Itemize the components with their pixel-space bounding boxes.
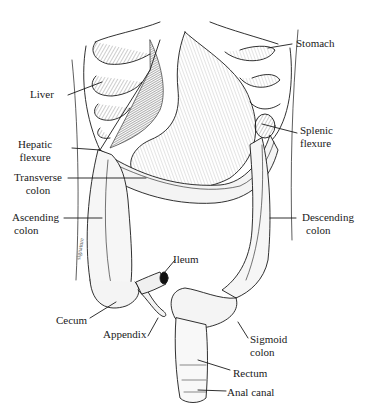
label-text: colon [250, 346, 287, 359]
cecum-shape [90, 280, 139, 308]
label-text: Cecum [56, 314, 87, 327]
label-text: colon [12, 224, 59, 237]
label-hepatic-flexure: Hepatic flexure [18, 138, 52, 164]
label-text: Anal canal [227, 386, 274, 399]
label-text: colon [302, 224, 354, 237]
colon-anatomy-illustration: signature [0, 0, 367, 410]
label-text: flexure [18, 151, 52, 164]
label-rectum: Rectum [233, 367, 267, 380]
label-text: Appendix [103, 328, 146, 341]
artist-signature: signature [75, 237, 85, 260]
label-text: Sigmoid [250, 333, 287, 346]
label-descending-colon: Descending colon [302, 211, 354, 237]
label-text: Hepatic [18, 138, 52, 151]
label-text: Descending [302, 211, 354, 224]
label-ileum: Ileum [173, 253, 199, 266]
label-transverse-colon: Transverse colon [14, 171, 62, 197]
label-text: Stomach [296, 37, 335, 50]
label-splenic-flexure: Splenic flexure [300, 124, 333, 150]
label-cecum: Cecum [56, 314, 87, 327]
label-text: Splenic [300, 124, 333, 137]
label-text: Transverse [14, 171, 62, 184]
label-text: Ileum [173, 253, 199, 266]
label-text: flexure [300, 137, 333, 150]
label-liver: Liver [30, 88, 54, 101]
splenic-flexure-shape [255, 114, 275, 138]
label-text: colon [14, 184, 62, 197]
label-sigmoid-colon: Sigmoid colon [250, 333, 287, 359]
label-stomach: Stomach [296, 37, 335, 50]
label-ascending-colon: Ascending colon [12, 211, 59, 237]
label-appendix: Appendix [103, 328, 146, 341]
label-text: Rectum [233, 367, 267, 380]
label-text: Ascending [12, 211, 59, 224]
label-anal-canal: Anal canal [227, 386, 274, 399]
label-text: Liver [30, 88, 54, 101]
